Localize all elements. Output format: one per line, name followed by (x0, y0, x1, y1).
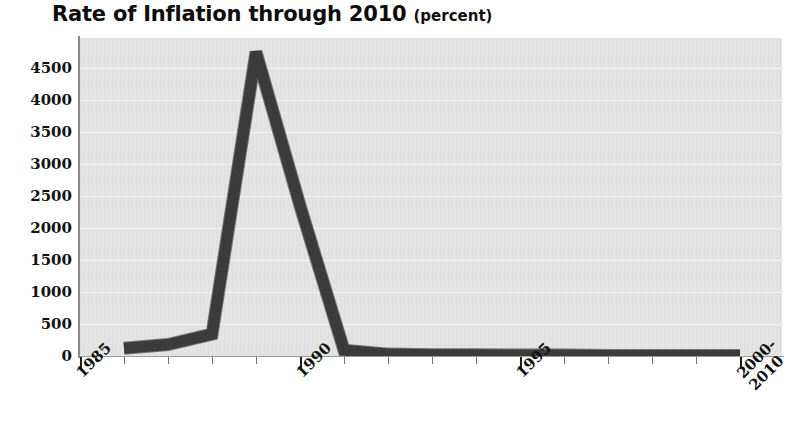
x-axis-minor-tick (432, 357, 433, 364)
data-series-line (80, 38, 782, 356)
x-axis-minor-tick (476, 357, 477, 364)
x-axis-minor-tick (388, 357, 389, 364)
y-axis-tick-label: 4500 (8, 61, 72, 76)
chart-figure: Rate of Inflation through 2010 (percent)… (0, 0, 786, 426)
x-axis-minor-tick (124, 357, 125, 364)
x-axis-minor-tick (696, 357, 697, 364)
x-axis-minor-tick (344, 357, 345, 364)
x-axis-minor-tick (212, 357, 213, 364)
y-axis-tick-label: 2500 (8, 189, 72, 204)
y-axis-tick-label: 2000 (8, 221, 72, 236)
x-axis-minor-tick (608, 357, 609, 364)
y-axis-tick-label: 500 (8, 317, 72, 332)
chart-subtitle: (percent) (413, 7, 492, 25)
y-axis-tick-label: 0 (8, 349, 72, 364)
x-axis-minor-tick (168, 357, 169, 364)
y-axis-tick-label: 3500 (8, 125, 72, 140)
y-axis-tick-label: 3000 (8, 157, 72, 172)
y-axis-tick-label: 1000 (8, 285, 72, 300)
chart-title-group: Rate of Inflation through 2010 (percent) (52, 2, 492, 26)
y-axis-tick-label: 4000 (8, 93, 72, 108)
x-axis-minor-tick (256, 357, 257, 364)
x-axis-minor-tick (564, 357, 565, 364)
plot-area (80, 38, 782, 356)
page-title: Rate of Inflation through 2010 (52, 2, 406, 26)
y-axis-tick-label: 1500 (8, 253, 72, 268)
x-axis-minor-tick (652, 357, 653, 364)
